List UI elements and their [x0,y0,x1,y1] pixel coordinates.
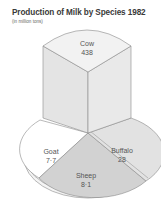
label-goat-name: Goat [43,148,58,155]
label-sheep-value: 8·1 [81,181,91,188]
pie-chart: Cow 438 Buffalo 28 Sheep 8·1 Goat 7·7 [0,0,161,208]
label-buffalo-value: 28 [118,156,126,163]
label-sheep-name: Sheep [76,172,96,180]
label-cow-name: Cow [80,40,95,47]
label-buffalo-name: Buffalo [111,147,133,154]
label-cow-value: 438 [81,49,93,56]
label-goat-value: 7·7 [46,157,56,164]
